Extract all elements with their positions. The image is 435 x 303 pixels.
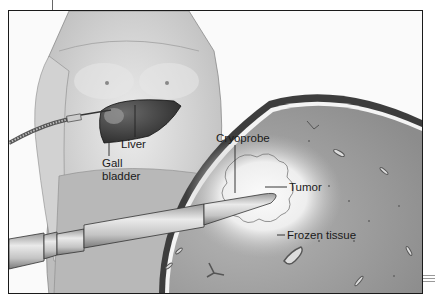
label-tumor: Tumor: [289, 181, 322, 193]
label-frozen-tissue: Frozen tissue: [287, 229, 356, 241]
label-gallbladder-line2: bladder: [102, 170, 140, 182]
illustration-frame: Liver Gall bladder Cryoprobe Tumor Froze…: [8, 10, 423, 294]
edge-decoration: [423, 275, 435, 285]
cryosurgery-illustration: [9, 11, 423, 294]
label-gallbladder-line1: Gall: [102, 157, 122, 169]
label-cryoprobe: Cryoprobe: [216, 132, 270, 144]
top-tick-mark: [52, 0, 53, 10]
label-liver: Liver: [121, 138, 146, 150]
